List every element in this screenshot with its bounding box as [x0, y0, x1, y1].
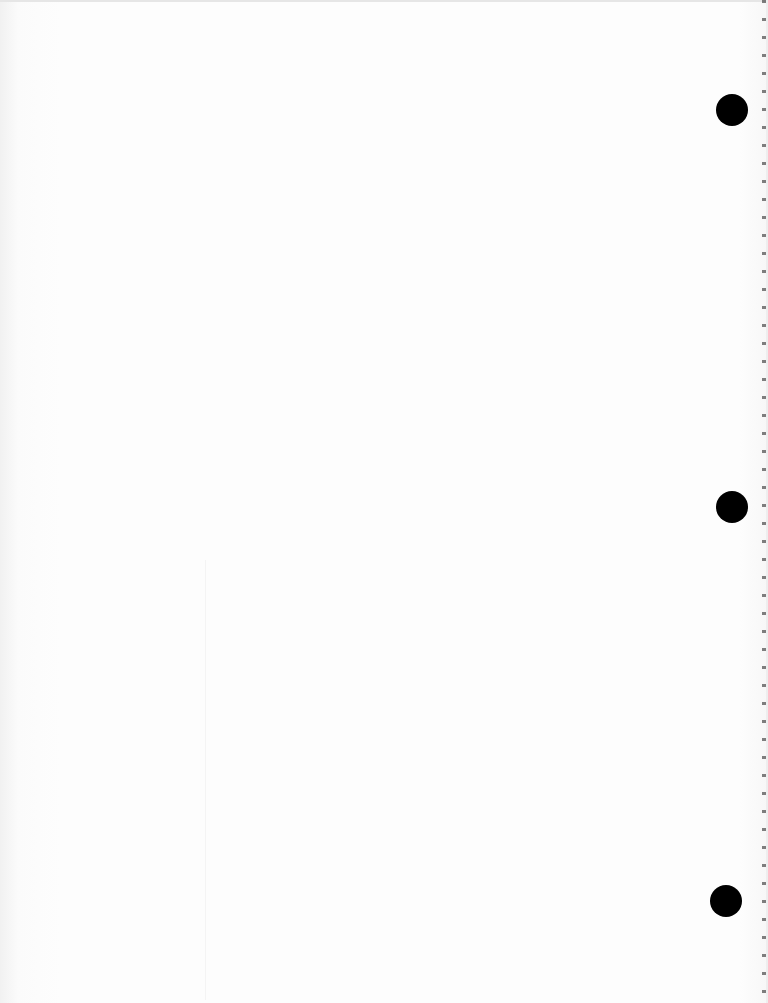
faint-margin-line — [205, 560, 206, 1000]
hole-punch-top-icon — [716, 94, 748, 126]
hole-punch-bottom-icon — [710, 885, 742, 917]
hole-punch-middle-icon — [716, 491, 748, 523]
scanned-page — [0, 0, 768, 1003]
top-edge — [0, 0, 768, 2]
